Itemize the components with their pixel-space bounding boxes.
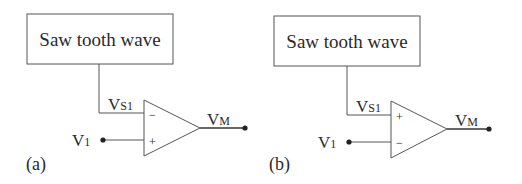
- top-terminal-sign: −: [149, 108, 156, 122]
- sawtooth-label: Saw tooth wave: [39, 29, 160, 50]
- bottom-terminal-sign: +: [149, 135, 156, 149]
- output-node: [242, 125, 247, 130]
- input-label: V1: [318, 133, 336, 152]
- comparator-diagrams: Saw tooth wave − + VS1 V1 VM (a) Saw too…: [0, 0, 522, 184]
- diagram-a: Saw tooth wave − + VS1 V1 VM (a): [26, 14, 248, 175]
- top-terminal-sign: +: [396, 110, 403, 124]
- output-label: VM: [455, 111, 478, 130]
- input-node: [346, 139, 351, 144]
- source-signal-label: VS1: [108, 95, 133, 114]
- sawtooth-label: Saw tooth wave: [286, 31, 407, 52]
- input-label: V1: [72, 131, 90, 150]
- diagram-b: Saw tooth wave + − VS1 V1 VM (b): [269, 16, 492, 175]
- bottom-terminal-sign: −: [396, 136, 403, 150]
- output-label: VM: [207, 110, 230, 129]
- output-node: [486, 126, 491, 131]
- input-node: [100, 137, 105, 142]
- caption: (a): [26, 154, 46, 175]
- caption: (b): [269, 154, 290, 175]
- source-signal-label: VS1: [356, 97, 381, 116]
